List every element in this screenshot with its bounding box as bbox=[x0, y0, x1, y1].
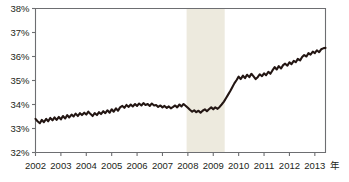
y-tick-label: 35% bbox=[10, 75, 30, 86]
data-series-line bbox=[36, 48, 326, 123]
y-tick-label: 32% bbox=[10, 147, 30, 158]
x-tick-label: 2006 bbox=[127, 160, 148, 171]
x-tick-label: 2007 bbox=[152, 160, 173, 171]
chart-container: 32%33%34%35%36%37%38% 200220032004200520… bbox=[0, 0, 349, 182]
recession-shaded-band bbox=[187, 9, 225, 153]
x-tick-label: 2004 bbox=[76, 160, 97, 171]
x-tick-label: 2003 bbox=[50, 160, 71, 171]
y-tick-label: 34% bbox=[10, 99, 30, 110]
line-chart: 32%33%34%35%36%37%38% 200220032004200520… bbox=[0, 0, 349, 182]
x-tick-label: 2009 bbox=[203, 160, 224, 171]
x-axis-unit: 年 bbox=[330, 160, 340, 171]
y-tick-label: 36% bbox=[10, 51, 30, 62]
x-tick-label: 2012 bbox=[279, 160, 300, 171]
x-tick-label: 2008 bbox=[177, 160, 198, 171]
x-tick-label: 2011 bbox=[254, 160, 274, 171]
y-tick-label: 37% bbox=[10, 27, 30, 38]
x-tick-label: 2005 bbox=[101, 160, 122, 171]
y-tick-label: 38% bbox=[10, 3, 30, 14]
x-tick-label: 2002 bbox=[25, 160, 46, 171]
y-axis-tick-labels: 32%33%34%35%36%37%38% bbox=[10, 3, 30, 158]
x-axis-tick-labels: 2002200320042005200620072008200920102011… bbox=[25, 160, 325, 171]
chart-axes bbox=[32, 9, 326, 157]
y-tick-label: 33% bbox=[10, 123, 30, 134]
x-axis-unit-label: 年 bbox=[330, 160, 340, 171]
x-tick-label: 2013 bbox=[304, 160, 325, 171]
series-line-series-1 bbox=[36, 48, 326, 123]
x-tick-label: 2010 bbox=[228, 160, 249, 171]
